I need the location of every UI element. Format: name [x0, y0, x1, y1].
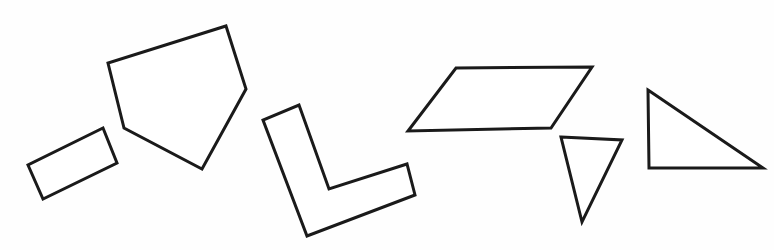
shape-canvas	[0, 0, 774, 250]
shapes-drawing	[0, 0, 774, 250]
